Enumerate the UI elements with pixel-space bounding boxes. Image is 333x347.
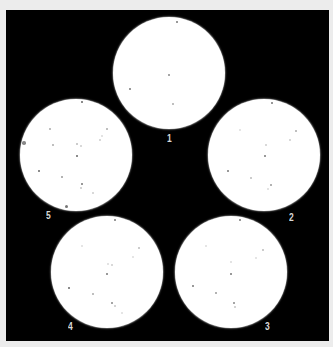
speck — [81, 245, 83, 247]
speck — [215, 292, 217, 294]
speck — [264, 155, 266, 157]
speck — [101, 135, 103, 137]
speck — [80, 145, 82, 147]
speck — [239, 129, 241, 131]
sample-plate-4 — [51, 216, 163, 328]
plate-label-4: 4 — [68, 322, 73, 332]
speck — [92, 293, 94, 295]
speck — [80, 187, 82, 189]
sample-plate-1 — [113, 17, 225, 129]
speck — [289, 139, 291, 141]
speck — [192, 285, 194, 287]
speck — [267, 188, 269, 190]
speck — [205, 245, 207, 247]
speck — [92, 192, 94, 194]
speck — [239, 219, 241, 221]
speck — [168, 74, 170, 76]
speck — [176, 21, 178, 23]
speck — [230, 261, 232, 263]
speck — [76, 143, 78, 145]
plate-label-3: 3 — [265, 322, 270, 332]
speck — [265, 144, 267, 146]
speck — [81, 183, 83, 185]
speck — [76, 155, 78, 157]
figure: 12345 — [0, 0, 333, 347]
speck — [65, 205, 68, 208]
sample-plate-3 — [175, 216, 287, 328]
speck — [233, 302, 235, 304]
speck — [262, 249, 264, 251]
speck — [111, 302, 113, 304]
plate-label-2: 2 — [289, 213, 294, 223]
speck — [271, 102, 273, 104]
speck — [52, 144, 54, 146]
speck — [107, 263, 109, 265]
speck — [255, 257, 257, 259]
speck — [61, 176, 63, 178]
plate-label-5: 5 — [46, 211, 51, 221]
speck — [234, 306, 236, 308]
speck — [99, 139, 101, 141]
speck — [230, 273, 232, 275]
speck — [106, 128, 108, 130]
speck — [138, 247, 140, 249]
speck — [106, 273, 108, 275]
plate-label-1: 1 — [167, 134, 172, 144]
speck — [270, 184, 272, 186]
speck — [295, 130, 297, 132]
speck — [114, 305, 116, 307]
speck — [250, 177, 252, 179]
speck — [22, 141, 26, 145]
speck — [121, 312, 123, 314]
speck — [49, 128, 51, 130]
speck — [114, 219, 116, 221]
speck — [172, 103, 174, 105]
speck — [111, 264, 113, 266]
speck — [132, 256, 134, 258]
